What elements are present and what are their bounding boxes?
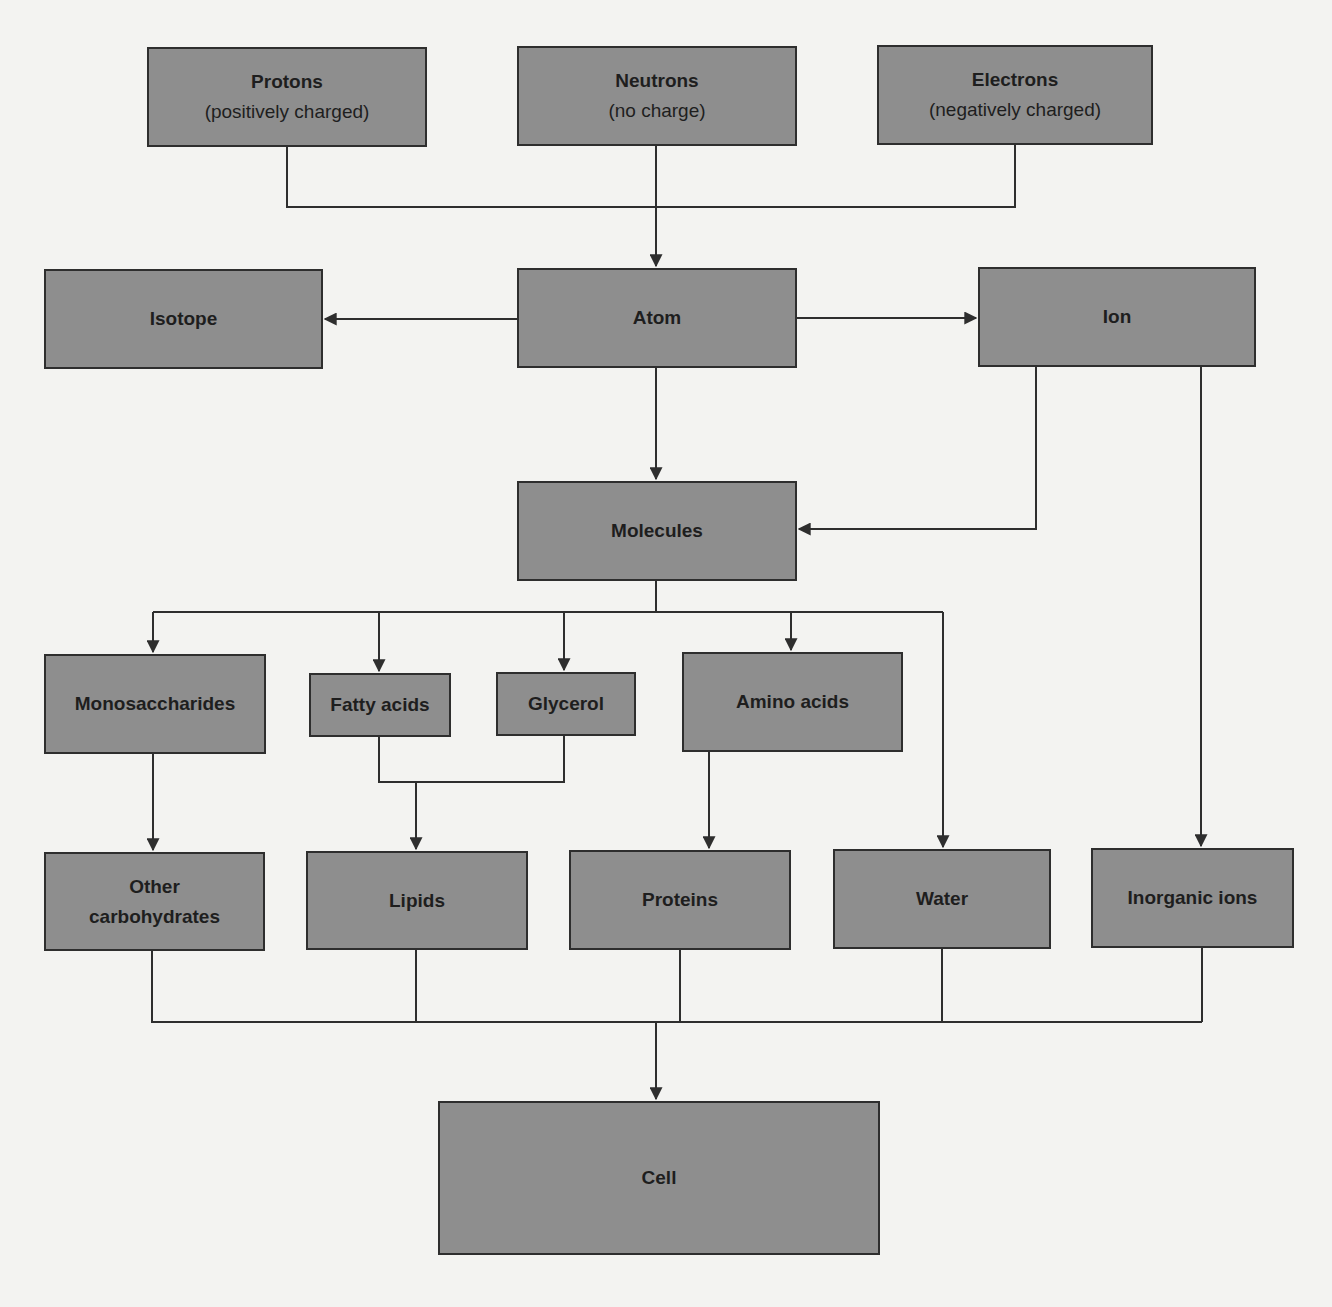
node-label: Other (129, 872, 180, 902)
node-fatty-acids: Fatty acids (309, 673, 451, 737)
node-label: Monosaccharides (75, 689, 236, 719)
node-atom: Atom (517, 268, 797, 368)
node-label: Cell (642, 1163, 677, 1193)
connector-fatty_acids-to-lipids (379, 736, 564, 849)
node-proteins: Proteins (569, 850, 791, 950)
node-other-carbohydrates: Other carbohydrates (44, 852, 265, 951)
node-label: Inorganic ions (1128, 883, 1258, 913)
node-monosaccharides: Monosaccharides (44, 654, 266, 754)
node-label: Protons (251, 67, 323, 97)
node-label-line2: carbohydrates (89, 902, 220, 932)
connector-electrons-to-atom (656, 145, 1015, 207)
node-label: Glycerol (528, 689, 604, 719)
node-label: Ion (1103, 302, 1132, 332)
node-glycerol: Glycerol (496, 672, 636, 736)
node-lipids: Lipids (306, 851, 528, 950)
node-inorganic-ions: Inorganic ions (1091, 848, 1294, 948)
node-sublabel: (no charge) (608, 96, 705, 126)
node-label: Amino acids (736, 687, 849, 717)
node-sublabel: (positively charged) (205, 97, 370, 127)
node-label: Neutrons (615, 66, 698, 96)
node-molecules: Molecules (517, 481, 797, 581)
node-sublabel: (negatively charged) (929, 95, 1101, 125)
node-isotope: Isotope (44, 269, 323, 369)
node-label: Proteins (642, 885, 718, 915)
connector-bus-to-monosaccharides (153, 612, 943, 652)
connector-ion-to-molecules (799, 367, 1036, 529)
node-cell: Cell (438, 1101, 880, 1255)
connector-other_carbohydrates-to-cell (152, 948, 1202, 1022)
node-label: Fatty acids (330, 690, 429, 720)
connector-protons-to-atom (287, 147, 656, 207)
node-label: Electrons (972, 65, 1059, 95)
diagram-canvas: Protons (positively charged) Neutrons (n… (0, 0, 1332, 1307)
node-label: Isotope (150, 304, 218, 334)
node-protons: Protons (positively charged) (147, 47, 427, 147)
node-water: Water (833, 849, 1051, 949)
node-label: Molecules (611, 516, 703, 546)
node-label: Water (916, 884, 968, 914)
node-label: Lipids (389, 886, 445, 916)
node-ion: Ion (978, 267, 1256, 367)
node-amino-acids: Amino acids (682, 652, 903, 752)
node-electrons: Electrons (negatively charged) (877, 45, 1153, 145)
node-label: Atom (633, 303, 682, 333)
node-neutrons: Neutrons (no charge) (517, 46, 797, 146)
